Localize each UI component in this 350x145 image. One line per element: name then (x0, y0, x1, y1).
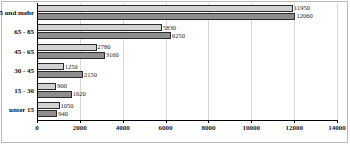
x-tick-mark (251, 120, 252, 123)
bar-value-label: 11950 (294, 4, 310, 11)
gridline (208, 3, 209, 120)
category-label: unter 15 (9, 106, 34, 114)
x-tick-label: 6000 (159, 124, 173, 132)
category-label: 45 - 65 (14, 48, 34, 56)
bar-value-label: 1250 (65, 63, 78, 70)
bar (37, 91, 72, 98)
bar-value-label: 12060 (296, 12, 312, 19)
x-axis-line (37, 120, 337, 121)
x-tick-label: 2000 (73, 124, 87, 132)
bar (37, 5, 293, 12)
x-tick-label: 12000 (285, 124, 303, 132)
bar-value-label: 940 (58, 110, 68, 117)
bar (37, 102, 60, 109)
x-tick-mark (337, 120, 338, 123)
bar (37, 44, 97, 51)
bar (37, 71, 83, 78)
category-label: 30 - 45 (14, 67, 34, 75)
bar (37, 83, 56, 90)
bar (37, 110, 57, 117)
x-tick-mark (37, 120, 38, 123)
x-tick-label: 8000 (201, 124, 215, 132)
bar (37, 24, 162, 31)
bar (37, 63, 64, 70)
bar-chart: 1050940900162012502150278031605830625011… (0, 0, 350, 145)
x-tick-label: 0 (35, 124, 39, 132)
bar-value-label: 5830 (163, 24, 176, 31)
x-tick-mark (294, 120, 295, 123)
x-tick-mark (208, 120, 209, 123)
x-tick-label: 14000 (328, 124, 346, 132)
gridline (123, 3, 124, 120)
bar-value-label: 2150 (84, 71, 97, 78)
x-tick-mark (123, 120, 124, 123)
x-tick-mark (166, 120, 167, 123)
bar (37, 13, 295, 20)
bar-value-label: 1620 (73, 90, 86, 97)
gridline (294, 3, 295, 120)
gridline (166, 3, 167, 120)
bar-value-label: 2780 (98, 43, 111, 50)
bar-value-label: 6250 (172, 32, 185, 39)
gridline (337, 3, 338, 120)
category-label: 5 und mehr (0, 9, 34, 17)
bar (37, 32, 171, 39)
x-tick-label: 10000 (243, 124, 261, 132)
category-label: 15 - 30 (14, 87, 34, 95)
bar (37, 52, 105, 59)
y-axis-line (37, 3, 38, 121)
gridline (80, 3, 81, 120)
bar-value-label: 900 (57, 82, 67, 89)
gridline (251, 3, 252, 120)
x-tick-mark (80, 120, 81, 123)
bar-value-label: 1050 (61, 102, 74, 109)
bar-value-label: 3160 (106, 51, 119, 58)
category-label: 65 - 85 (14, 28, 34, 36)
x-tick-label: 4000 (116, 124, 130, 132)
